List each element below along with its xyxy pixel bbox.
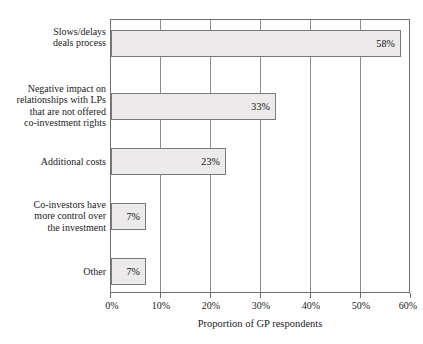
x-tick-label-30: 30%	[252, 300, 270, 311]
category-axis-labels: Slows/delays deals process Negative impa…	[0, 0, 106, 344]
x-tick-mark-20	[210, 293, 211, 298]
bar-other[interactable]: 7%	[111, 258, 146, 285]
x-tick-label-50: 50%	[352, 300, 370, 311]
x-tick-label-40: 40%	[302, 300, 320, 311]
gridline-30	[260, 20, 261, 292]
x-tick-label-60: 60%	[399, 300, 417, 311]
bar-value-label: 7%	[126, 267, 145, 277]
x-tick-mark-0	[110, 293, 111, 298]
x-tick-mark-30	[260, 293, 261, 298]
gridline-40	[310, 20, 311, 292]
bar-value-label: 23%	[201, 157, 225, 167]
bar-value-label: 7%	[126, 212, 145, 222]
plot-area: 58% 33% 23% 7% 7%	[110, 19, 410, 293]
bar-slows-delays-deals-process[interactable]: 58%	[111, 30, 401, 57]
category-label-additional-costs: Additional costs	[0, 156, 106, 167]
x-tick-label-0: 0%	[105, 300, 118, 311]
bar-co-investors-have-more-control[interactable]: 7%	[111, 203, 146, 230]
category-label-co-investors-have-more-control: Co-investors have more control over the …	[0, 199, 106, 233]
x-tick-mark-10	[160, 293, 161, 298]
bar-negative-impact-on-relationships[interactable]: 33%	[111, 93, 276, 120]
bar-additional-costs[interactable]: 23%	[111, 148, 226, 175]
x-tick-label-20: 20%	[202, 300, 220, 311]
category-label-negative-impact-on-relationships: Negative impact on relationships with LP…	[0, 83, 106, 129]
x-axis-title: Proportion of GP respondents	[110, 318, 410, 329]
gridline-50	[360, 20, 361, 292]
bar-value-label: 58%	[376, 39, 400, 49]
category-label-other: Other	[0, 266, 106, 277]
bar-value-label: 33%	[251, 102, 275, 112]
bar-chart: Slows/delays deals process Negative impa…	[0, 0, 423, 344]
x-tick-mark-40	[310, 293, 311, 298]
category-label-slows-delays-deals-process: Slows/delays deals process	[0, 26, 106, 49]
x-tick-mark-50	[360, 293, 361, 298]
x-tick-mark-60	[410, 293, 411, 298]
x-tick-label-10: 10%	[152, 300, 170, 311]
